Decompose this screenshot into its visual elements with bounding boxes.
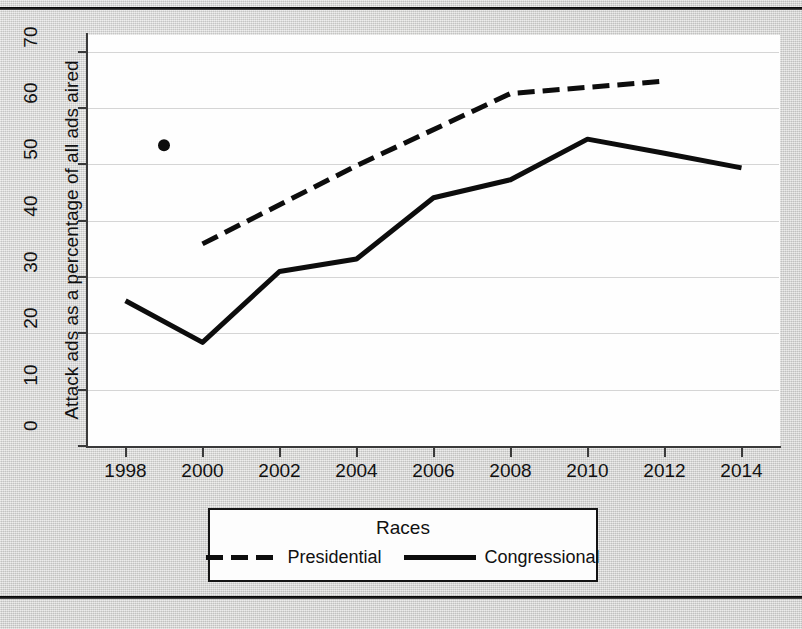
legend-entries: Presidential Congressional [210, 547, 596, 568]
dashed-line-swatch-icon [206, 555, 278, 560]
series-lines [0, 14, 802, 494]
legend-item-congressional[interactable]: Congressional [404, 547, 600, 568]
legend-label-congressional: Congressional [485, 547, 600, 568]
series-line-presidential [203, 81, 665, 244]
stray-dot-marker [158, 139, 170, 151]
top-horizontal-rule [0, 7, 802, 10]
legend-item-presidential[interactable]: Presidential [206, 547, 381, 568]
cropped-title-fragment: · , [0, 0, 802, 7]
series-line-congressional [126, 139, 742, 342]
legend-label-presidential: Presidential [287, 547, 381, 568]
solid-line-swatch-icon [404, 555, 476, 560]
bottom-horizontal-rule [0, 596, 802, 599]
chart-figure: 010203040506070 199820002002200420062008… [0, 14, 802, 494]
legend-title: Races [210, 517, 596, 539]
legend-box: Races Presidential Congressional [208, 508, 598, 582]
